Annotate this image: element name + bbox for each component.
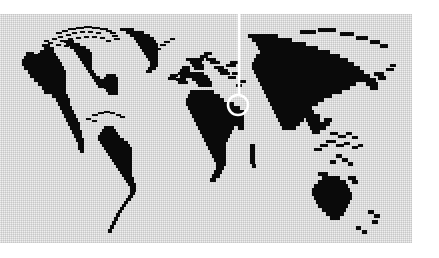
land-cell	[306, 118, 320, 122]
land-cell	[236, 84, 242, 87]
land-cell	[92, 114, 98, 116]
land-cell	[266, 94, 332, 98]
land-cell	[346, 132, 352, 135]
land-cell	[80, 31, 85, 33]
land-cell	[130, 189, 136, 192]
land-cell	[296, 118, 304, 122]
land-cell	[194, 118, 236, 122]
land-cell	[198, 126, 234, 130]
land-cell	[300, 80, 306, 83]
land-cell	[126, 31, 144, 34]
land-cell	[348, 176, 356, 180]
land-cell	[74, 49, 90, 52]
land-cell	[226, 64, 236, 67]
land-cell	[124, 177, 134, 180]
land-cell	[188, 94, 220, 98]
land-cell	[120, 207, 124, 210]
land-cell	[60, 40, 65, 42]
world-map-figure	[0, 0, 439, 258]
land-cell	[318, 172, 328, 176]
land-cell	[104, 147, 132, 150]
land-cell	[104, 126, 114, 129]
land-cell	[84, 64, 92, 67]
land-cell	[68, 122, 80, 126]
land-cell	[330, 216, 340, 220]
land-cell	[316, 126, 326, 130]
land-cell	[260, 82, 356, 86]
land-cell	[68, 38, 73, 40]
land-cell	[112, 35, 118, 37]
land-cell	[48, 42, 53, 44]
land-cell	[102, 80, 118, 83]
land-cell	[308, 122, 320, 126]
map-panel[interactable]	[0, 14, 412, 243]
land-cell	[194, 67, 204, 70]
land-cell	[146, 55, 158, 58]
land-cell	[76, 37, 81, 39]
land-cell	[232, 72, 238, 75]
land-cell	[256, 54, 340, 58]
land-cell	[100, 28, 108, 30]
land-cell	[130, 186, 136, 189]
land-cell	[212, 174, 220, 178]
land-cell	[110, 156, 132, 159]
land-cell	[210, 178, 216, 182]
land-cell	[352, 136, 358, 139]
land-cell	[358, 74, 370, 78]
land-cell	[126, 180, 134, 183]
land-cell	[262, 86, 350, 90]
land-cell	[318, 180, 346, 184]
land-cell	[228, 76, 236, 79]
land-cell	[282, 126, 296, 130]
land-cell	[64, 45, 69, 47]
land-cell	[190, 90, 214, 94]
land-cell	[352, 146, 358, 149]
land-cell	[66, 118, 78, 122]
land-cell	[234, 118, 244, 122]
land-cell	[56, 44, 61, 46]
landmass-group	[22, 26, 396, 234]
land-cell	[126, 198, 131, 201]
land-cell	[84, 26, 92, 28]
land-cell	[110, 225, 114, 229]
land-cell	[92, 76, 100, 79]
land-cell	[254, 70, 364, 74]
land-cell	[30, 66, 64, 70]
land-cell	[230, 110, 244, 114]
land-cell	[150, 64, 158, 67]
land-cell	[176, 78, 186, 81]
land-cell	[120, 28, 134, 31]
land-cell	[190, 110, 234, 114]
land-cell	[380, 44, 388, 48]
land-cell	[128, 183, 136, 186]
land-cell	[122, 204, 126, 207]
land-cell	[70, 126, 80, 130]
land-cell	[216, 162, 226, 166]
land-cell	[108, 229, 112, 233]
land-cell	[122, 174, 132, 177]
land-cell	[92, 120, 97, 122]
land-cell	[338, 135, 346, 138]
land-cell	[66, 34, 71, 36]
land-cell	[88, 70, 94, 73]
land-cell	[340, 32, 354, 36]
land-cell	[102, 144, 130, 147]
land-cell	[58, 102, 70, 106]
land-cell	[144, 52, 158, 55]
land-cell	[124, 201, 128, 204]
land-cell	[258, 46, 318, 50]
land-cell	[212, 154, 226, 158]
land-cell	[226, 106, 240, 110]
land-cell	[148, 67, 156, 70]
land-cell	[134, 37, 154, 40]
land-cell	[104, 86, 118, 89]
land-cell	[86, 118, 91, 120]
land-cell	[114, 162, 132, 165]
land-cell	[102, 129, 116, 132]
land-cell	[52, 38, 57, 40]
land-cell	[314, 196, 352, 200]
land-cell	[88, 31, 93, 33]
land-cell	[74, 134, 82, 138]
land-cell	[356, 226, 361, 230]
land-cell	[344, 142, 350, 145]
